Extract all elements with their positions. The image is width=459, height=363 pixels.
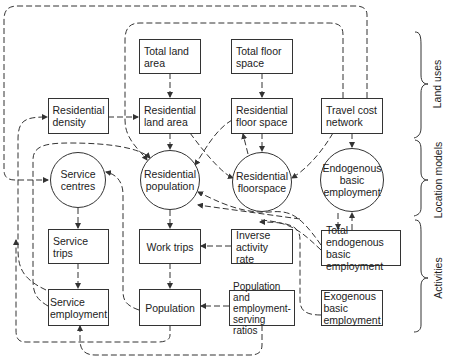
box-label: Inverse activity rate <box>236 229 288 265</box>
circle-residential-floorspace: Residential floorspace <box>232 152 292 212</box>
circle-residential-population: Residential population <box>140 150 200 210</box>
box-label: Work trips <box>146 241 193 253</box>
circle-label: Residential floorspace <box>233 170 291 194</box>
box-label: Residential density <box>53 104 105 128</box>
box-label: Population and employment-serving ratios <box>233 281 291 336</box>
box-residential-density: Residential density <box>48 98 109 134</box>
label-activities: Activities <box>432 250 444 306</box>
box-travel-cost-network: Travel cost network <box>321 98 383 134</box>
box-population: Population <box>139 289 201 326</box>
box-total-land-area: Total land area <box>139 39 201 74</box>
circle-label: Endogenous basic employment <box>321 162 383 198</box>
box-service-trips: Service trips <box>48 229 109 264</box>
model-flow-diagram: Total land area Total floor space Reside… <box>0 0 459 363</box>
box-inverse-activity-rate: Inverse activity rate <box>231 229 293 264</box>
box-residential-floor-space: Residential floor space <box>231 98 293 134</box>
label-land-uses: Land uses <box>431 59 443 109</box>
box-label: Service employment <box>50 296 107 320</box>
box-label: Population <box>145 302 195 314</box>
label-location-models: Location models <box>432 140 444 220</box>
box-label: Total endogenous basic employment <box>326 224 396 272</box>
box-label: Exogenous basic employment <box>323 290 380 326</box>
box-residential-land-area: Residential land area <box>139 98 201 134</box>
circle-service-centres: Service centres <box>50 152 106 208</box>
box-label: Total land area <box>144 45 196 69</box>
box-total-endogenous-basic-employment: Total endogenous basic employment <box>321 230 401 266</box>
box-work-trips: Work trips <box>139 229 201 264</box>
box-label: Total floor space <box>236 45 288 69</box>
circle-label: Service centres <box>51 168 105 192</box>
box-population-employment-ratios: Population and employment-serving ratios <box>229 290 295 326</box>
box-label: Service trips <box>53 235 104 259</box>
box-label: Residential land area <box>144 104 196 128</box>
circle-label: Residential population <box>141 168 199 192</box>
circle-endogenous-basic-employment: Endogenous basic employment <box>320 148 384 212</box>
box-label: Travel cost network <box>326 104 378 128</box>
box-exogenous-basic-employment: Exogenous basic employment <box>321 290 383 326</box>
box-label: Residential floor space <box>236 104 288 128</box>
box-total-floor-space: Total floor space <box>231 39 293 74</box>
box-service-employment: Service employment <box>48 289 109 326</box>
